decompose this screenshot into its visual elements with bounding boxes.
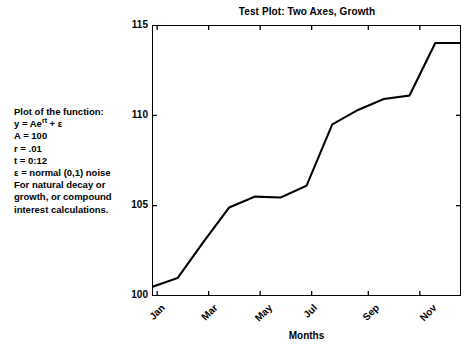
annotation-line-6: ε = normal (0,1) noise [14, 167, 132, 179]
data-series-line [152, 43, 461, 287]
x-tick-marks [157, 25, 420, 296]
annotation-text-block: Plot of the function: y = Aert + ε A = 1… [14, 106, 132, 216]
x-tick-label-sep: Sep [360, 302, 381, 323]
y-tick-label-105: 105 [118, 199, 148, 210]
annotation-line-9: interest calculations. [14, 204, 132, 216]
annotation-line-7: For natural decay or [14, 179, 132, 191]
x-tick-label-jan: Jan [147, 302, 167, 322]
annotation-line-2-equation: y = Aert + ε [14, 118, 132, 130]
x-axis-title: Months [152, 330, 461, 341]
equation-suffix: + ε [47, 118, 62, 129]
annotation-line-8: growth, or compound [14, 191, 132, 203]
x-tick-label-may: May [253, 302, 275, 324]
y-tick-label-100: 100 [118, 289, 148, 300]
annotation-line-3: A = 100 [14, 130, 132, 142]
x-tick-label-mar: Mar [199, 302, 219, 322]
y-tick-marks [152, 115, 461, 205]
y-tick-label-115: 115 [118, 19, 148, 30]
equation-prefix: y = Ae [14, 118, 42, 129]
x-tick-label-jul: Jul [301, 302, 319, 320]
y-tick-label-110: 110 [118, 109, 148, 120]
figure-canvas: Test Plot: Two Axes, Growth Plot of the … [0, 0, 474, 347]
x-tick-label-nov: Nov [418, 302, 439, 323]
plot-title: Test Plot: Two Axes, Growth [152, 6, 462, 17]
annotation-line-1: Plot of the function: [14, 106, 132, 118]
annotation-line-5: t = 0:12 [14, 155, 132, 167]
annotation-line-4: r = .01 [14, 143, 132, 155]
plot-data-layer [152, 25, 461, 296]
